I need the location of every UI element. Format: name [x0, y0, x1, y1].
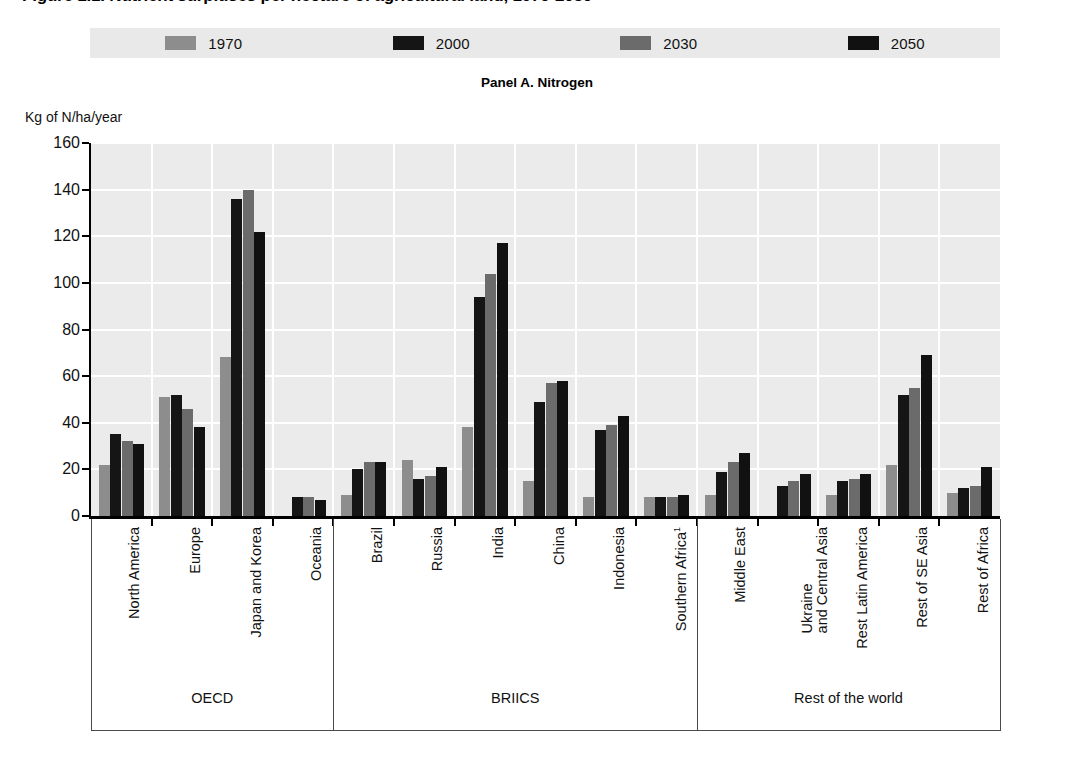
- y-tick-0: [82, 515, 89, 517]
- y-tick-label-100: 100: [20, 274, 80, 292]
- figure-page: Figure 1.1. Nutrient surpluses per hecta…: [0, 0, 1074, 757]
- bar-indonesia-2000: [595, 430, 606, 516]
- bar-russia-2050: [436, 467, 447, 516]
- x-category-label-rest-latin-america: Rest Latin America: [855, 527, 870, 649]
- group-baseline: [91, 730, 1000, 731]
- bar-rest-latin-america-2030: [849, 479, 860, 516]
- x-category-label-southern-africa: Southern Africa1: [673, 527, 689, 631]
- bar-indonesia-1970: [583, 497, 594, 516]
- y-tick-120: [82, 235, 89, 237]
- y-tick-label-0: 0: [20, 507, 80, 525]
- bar-rest-latin-america-1970: [826, 495, 837, 516]
- bar-indonesia-2050: [618, 416, 629, 516]
- y-tick-20: [82, 468, 89, 470]
- y-tick-100: [82, 282, 89, 284]
- x-category-label-north-america: North America: [127, 527, 142, 619]
- bar-europe-2030: [182, 409, 193, 516]
- bar-rest-latin-america-2000: [837, 481, 848, 516]
- bar-russia-1970: [402, 460, 413, 516]
- panel-caption: Panel A. Nitrogen: [0, 75, 1074, 90]
- chart-legend: 1970 2000 2030 2050: [90, 28, 1000, 58]
- bar-rest-of-africa-2050: [981, 467, 992, 516]
- y-tick-label-120: 120: [20, 227, 80, 245]
- bar-rest-latin-america-2050: [860, 474, 871, 516]
- x-category-label-rest-of-se-asia: Rest of SE Asia: [915, 527, 930, 628]
- y-axis-unit-label: Kg of N/ha/year: [25, 109, 122, 125]
- y-tick-80: [82, 329, 89, 331]
- bar-india-2050: [497, 243, 508, 516]
- bar-rest-of-se-asia-2000: [898, 395, 909, 516]
- x-axis-category-labels: North AmericaEuropeJapan and KoreaOceani…: [91, 519, 1000, 679]
- bar-japan-and-korea-2000: [231, 199, 242, 516]
- legend-swatch-1970: [165, 36, 196, 50]
- bar-china-2000: [534, 402, 545, 516]
- x-category-label-oceania: Oceania: [309, 527, 324, 581]
- legend-label-2050: 2050: [891, 35, 925, 52]
- x-category-label-rest-of-africa: Rest of Africa: [976, 527, 991, 613]
- legend-item-2050: 2050: [773, 35, 1001, 52]
- bar-southern-africa-2000: [655, 497, 666, 516]
- bar-north-america-1970: [99, 465, 110, 516]
- bar-rest-of-se-asia-2030: [909, 388, 920, 516]
- x-category-label-brazil: Brazil: [370, 527, 385, 563]
- bar-china-2050: [557, 381, 568, 516]
- bar-india-1970: [462, 427, 473, 516]
- bar-middle-east-2030: [728, 462, 739, 516]
- bar-russia-2000: [413, 479, 424, 516]
- legend-swatch-2000: [393, 36, 424, 50]
- bar-oceania-2030: [303, 497, 314, 516]
- bar-series-layer: [91, 143, 1000, 516]
- x-category-label-japan-and-korea: Japan and Korea: [249, 527, 264, 637]
- bar-rest-of-africa-2030: [970, 486, 981, 516]
- bar-russia-2030: [425, 476, 436, 516]
- legend-swatch-2030: [620, 36, 651, 50]
- bar-ukraine-and-central-asia-2000: [777, 486, 788, 516]
- x-category-label-india: India: [491, 527, 506, 558]
- group-label-oecd: OECD: [91, 690, 333, 706]
- y-tick-60: [82, 375, 89, 377]
- y-tick-40: [82, 422, 89, 424]
- bar-north-america-2000: [110, 434, 121, 516]
- bar-rest-of-africa-1970: [947, 493, 958, 516]
- bar-brazil-1970: [341, 495, 352, 516]
- bar-europe-2000: [171, 395, 182, 516]
- legend-label-2030: 2030: [663, 35, 697, 52]
- bar-southern-africa-1970: [644, 497, 655, 516]
- bar-china-2030: [546, 383, 557, 516]
- bar-middle-east-2000: [716, 472, 727, 516]
- x-category-label-russia: Russia: [430, 527, 445, 571]
- y-tick-label-140: 140: [20, 181, 80, 199]
- bar-europe-2050: [194, 427, 205, 516]
- legend-label-2000: 2000: [436, 35, 470, 52]
- bar-north-america-2050: [133, 444, 144, 516]
- bar-southern-africa-2050: [678, 495, 689, 516]
- bar-japan-and-korea-2030: [243, 190, 254, 516]
- bar-oceania-2050: [315, 500, 326, 516]
- y-tick-label-80: 80: [20, 321, 80, 339]
- bar-india-2000: [474, 297, 485, 516]
- bar-europe-1970: [159, 397, 170, 516]
- group-label-briics: BRIICS: [333, 690, 697, 706]
- bar-brazil-2000: [352, 469, 363, 516]
- legend-item-2030: 2030: [545, 35, 773, 52]
- bar-north-america-2030: [122, 441, 133, 516]
- figure-title: Figure 1.1. Nutrient surpluses per hecta…: [22, 0, 592, 6]
- x-category-label-europe: Europe: [188, 527, 203, 574]
- y-tick-label-20: 20: [20, 460, 80, 478]
- y-tick-label-160: 160: [20, 134, 80, 152]
- bar-brazil-2030: [364, 462, 375, 516]
- y-tick-160: [82, 142, 89, 144]
- bar-oceania-2000: [292, 497, 303, 516]
- legend-label-1970: 1970: [208, 35, 242, 52]
- y-tick-140: [82, 189, 89, 191]
- y-tick-label-40: 40: [20, 414, 80, 432]
- bar-southern-africa-2030: [667, 497, 678, 516]
- x-category-label-ukraine: Ukraineand Central Asia: [800, 527, 830, 633]
- bar-brazil-2050: [375, 462, 386, 516]
- x-category-label-indonesia: Indonesia: [612, 527, 627, 590]
- bar-rest-of-africa-2000: [958, 488, 969, 516]
- x-category-label-china: China: [552, 527, 567, 565]
- bar-china-1970: [523, 481, 534, 516]
- legend-item-1970: 1970: [90, 35, 318, 52]
- bar-middle-east-2050: [739, 453, 750, 516]
